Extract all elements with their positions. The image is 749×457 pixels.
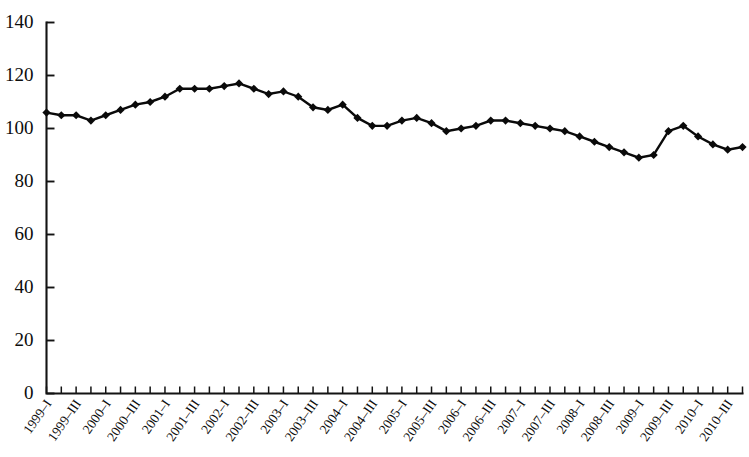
y-axis-tick-labels: 020406080100120140 [5,11,34,403]
data-point-marker [576,132,584,140]
data-point-marker [472,122,480,130]
data-point-marker [531,122,539,130]
data-series-markers [42,79,746,161]
data-point-marker [724,146,732,154]
data-point-marker [605,143,613,151]
data-point-marker [205,85,213,93]
y-axis-tick-label: 60 [15,223,34,244]
y-axis-tick-label: 40 [15,276,34,297]
data-point-marker [72,111,80,119]
y-axis-tick-label: 120 [5,64,34,85]
data-point-marker [220,82,228,90]
data-point-marker [235,79,243,87]
data-point-marker [116,106,124,114]
data-point-marker [516,119,524,127]
data-point-marker [635,154,643,162]
data-point-marker [279,87,287,95]
data-point-marker [487,116,495,124]
y-axis-tick-label: 100 [5,117,34,138]
data-point-marker [590,138,598,146]
data-point-marker [190,85,198,93]
data-point-marker [131,101,139,109]
line-chart: 020406080100120140 1999–I1999–III2000–I2… [0,0,749,457]
data-point-marker [620,148,628,156]
data-point-marker [57,111,65,119]
data-point-marker [413,114,421,122]
data-point-marker [546,124,554,132]
chart-canvas: 020406080100120140 1999–I1999–III2000–I2… [0,0,749,457]
data-point-marker [561,127,569,135]
data-point-marker [457,124,465,132]
data-series-line [47,83,743,157]
data-point-marker [265,90,273,98]
y-axis-tick-label: 80 [15,170,34,191]
data-point-marker [324,106,332,114]
y-axis-tick-marks [47,23,55,394]
chart-axes [47,23,743,394]
data-point-marker [250,85,258,93]
data-point-marker [398,116,406,124]
data-point-marker [42,109,50,117]
data-point-marker [501,116,509,124]
y-axis-tick-label: 0 [24,382,34,403]
data-point-marker [738,143,746,151]
y-axis-tick-label: 20 [15,329,34,350]
x-axis-tick-labels: 1999–I1999–III2000–I2000–III2001–I2001–I… [20,396,736,444]
data-point-marker [87,116,95,124]
data-point-marker [146,98,154,106]
data-point-marker [383,122,391,130]
y-axis-tick-label: 140 [5,11,34,32]
data-point-marker [102,111,110,119]
